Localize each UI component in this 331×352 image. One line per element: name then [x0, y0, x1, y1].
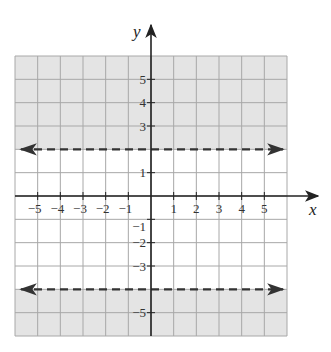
y-tick-label: −5: [132, 305, 146, 320]
y-tick-label: 4: [140, 95, 147, 110]
y-tick-label: −2: [132, 235, 146, 250]
y-tick-label: −1: [132, 219, 146, 234]
x-tick-label: −5: [28, 201, 42, 216]
x-tick-label: −1: [118, 201, 132, 216]
x-tick-label: −4: [50, 201, 64, 216]
x-tick-label: 1: [170, 201, 177, 216]
x-axis-label: x: [308, 200, 317, 219]
x-tick-label: 5: [261, 201, 268, 216]
coordinate-plane: −5−4−3−2−1123455431−1−2−3−5xy: [0, 0, 331, 352]
x-tick-label: 3: [216, 201, 223, 216]
x-tick-label: −2: [96, 201, 110, 216]
y-tick-label: 5: [140, 72, 147, 87]
y-tick-label: −3: [132, 259, 146, 274]
y-tick-label: 1: [140, 165, 147, 180]
x-tick-label: 4: [238, 201, 245, 216]
x-tick-label: 2: [193, 201, 200, 216]
y-axis-label: y: [131, 22, 141, 41]
x-tick-label: −3: [73, 201, 87, 216]
y-tick-label: 3: [140, 119, 147, 134]
